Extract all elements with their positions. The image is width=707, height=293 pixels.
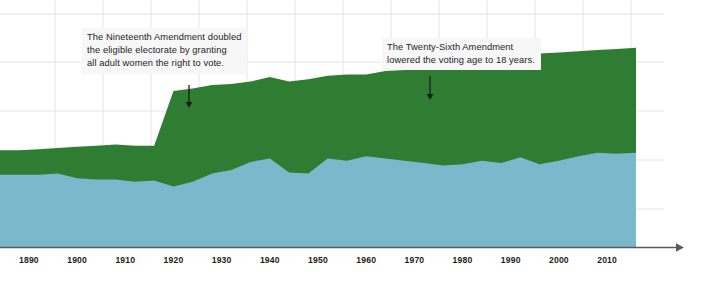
x-tick-1930: 1930 [212,255,232,265]
annotation-nineteenth-amendment: The Nineteenth Amendment doubled the eli… [82,28,247,74]
x-tick-1970: 1970 [404,255,424,265]
x-tick-1960: 1960 [356,255,376,265]
x-tick-1910: 1910 [115,255,135,265]
x-tick-1950: 1950 [308,255,328,265]
voting-eligibility-area-chart: 1890190019101920193019401950196019701980… [0,0,707,293]
x-tick-2010: 2010 [597,255,617,265]
x-tick-2000: 2000 [549,255,569,265]
annotation-twenty-sixth-amendment: The Twenty-Sixth Amendment lowered the v… [382,38,541,70]
x-tick-1920: 1920 [164,255,184,265]
x-tick-1990: 1990 [501,255,521,265]
x-tick-1890: 1890 [19,255,39,265]
x-tick-1940: 1940 [260,255,280,265]
x-tick-1980: 1980 [453,255,473,265]
x-tick-1900: 1900 [67,255,87,265]
